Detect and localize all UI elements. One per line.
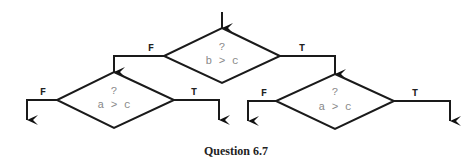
flowchart: ? b > c F T ? a > c F T ? a > c F T Ques… (0, 0, 473, 164)
edge-right-true (394, 101, 450, 121)
edge-right-false (248, 101, 276, 121)
decision-right: ? a > c (276, 74, 394, 129)
decision-top: ? b > c (164, 28, 280, 83)
edge-label-true: T (299, 43, 305, 54)
edge-top-false (114, 56, 164, 72)
edge-label-true: T (191, 87, 197, 98)
edge-label-true: T (412, 88, 418, 99)
condition-text: a > c (318, 101, 351, 113)
question-mark: ? (332, 86, 339, 98)
condition-text: a > c (97, 99, 130, 111)
edge-left-false (27, 100, 57, 120)
edge-label-false: F (148, 43, 154, 54)
edge-left-true (174, 100, 219, 120)
edge-top-true (280, 56, 335, 74)
question-mark: ? (219, 41, 226, 53)
question-mark: ? (111, 85, 118, 97)
condition-text: b > c (205, 55, 238, 67)
edge-label-false: F (261, 88, 267, 99)
decision-left: ? a > c (57, 72, 174, 128)
edge-label-false: F (40, 87, 46, 98)
figure-caption: Question 6.7 (204, 144, 268, 158)
